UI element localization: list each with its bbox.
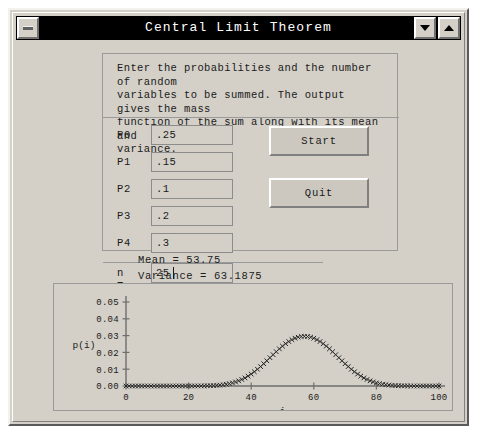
label-p3: P3 — [117, 210, 149, 222]
start-button[interactable]: Start — [269, 126, 369, 156]
input-p2[interactable]: .1 — [151, 179, 233, 199]
data-marker — [352, 369, 357, 374]
application-window: Central Limit Theorem Enter the probabil… — [8, 8, 469, 426]
input-p4[interactable]: .3 — [151, 233, 233, 253]
chart-panel: 0.000.010.020.030.040.05020406080100p(i)… — [53, 283, 453, 411]
variance-text: Variance = 63.1875 — [138, 268, 262, 284]
y-tick-label: 0.02 — [96, 349, 119, 359]
plot-axes — [123, 296, 446, 390]
quit-button-label: Quit — [305, 187, 333, 199]
label-p2: P2 — [117, 183, 149, 195]
x-tick-label: 0 — [123, 393, 129, 403]
window-inner-frame: Central Limit Theorem Enter the probabil… — [12, 12, 465, 422]
input-form-panel: Enter the probabilities and the number o… — [102, 53, 398, 251]
plot-tick-labels: 0.000.010.020.030.040.05020406080100p(i)… — [73, 298, 448, 410]
x-axis-label: i — [280, 406, 286, 410]
value-p0: .25 — [156, 129, 176, 141]
x-tick-label: 20 — [183, 393, 194, 403]
y-tick-label: 0.05 — [96, 298, 119, 308]
triangle-up-icon — [440, 19, 458, 37]
results-area: Mean = 53.75 Variance = 63.1875 — [138, 252, 262, 284]
x-tick-label: 80 — [371, 393, 382, 403]
x-tick-label: 60 — [308, 393, 319, 403]
y-tick-label: 0.04 — [96, 315, 119, 325]
y-tick-label: 0.01 — [96, 366, 119, 376]
window-title: Central Limit Theorem — [16, 16, 461, 40]
y-tick-label: 0.03 — [96, 332, 119, 342]
label-p0: P0 — [117, 129, 149, 141]
quit-button[interactable]: Quit — [269, 178, 369, 208]
pmf-plot: 0.000.010.020.030.040.05020406080100p(i)… — [54, 284, 452, 410]
value-p1: .15 — [156, 156, 176, 168]
value-p4: .3 — [156, 237, 170, 249]
title-bar[interactable]: Central Limit Theorem — [16, 16, 461, 40]
plot-data-markers — [124, 334, 442, 388]
triangle-down-icon — [416, 19, 434, 37]
input-p3[interactable]: .2 — [151, 206, 233, 226]
y-tick-label: 0.00 — [96, 382, 119, 392]
minimize-button[interactable] — [414, 17, 436, 39]
mean-text: Mean = 53.75 — [138, 252, 262, 268]
input-p0[interactable]: .25 — [151, 125, 233, 145]
start-button-label: Start — [301, 135, 337, 147]
label-p1: P1 — [117, 156, 149, 168]
value-p2: .1 — [156, 183, 170, 195]
maximize-button[interactable] — [438, 17, 460, 39]
value-p3: .2 — [156, 210, 170, 222]
label-p4: P4 — [117, 237, 149, 249]
form-divider — [103, 117, 399, 118]
y-axis-label: p(i) — [73, 340, 96, 351]
x-tick-label: 100 — [430, 393, 447, 403]
x-tick-label: 40 — [245, 393, 256, 403]
input-p1[interactable]: .15 — [151, 152, 233, 172]
